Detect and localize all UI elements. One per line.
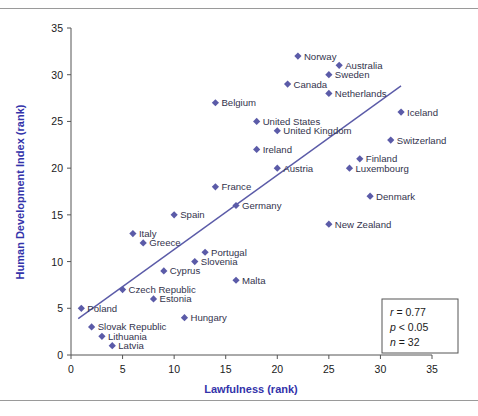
data-point-marker	[181, 314, 188, 321]
stat-n: n = 32	[390, 336, 420, 348]
data-point-label: Ireland	[263, 144, 292, 155]
data-point-marker	[98, 333, 105, 340]
y-tick-label: 5	[57, 302, 63, 314]
figure-container: 05101520253035 05101520253035 NorwayAust…	[0, 0, 478, 416]
y-axis-title: Human Development Index (rank)	[14, 104, 26, 279]
data-point-label: Iceland	[407, 107, 438, 118]
data-point-label: Latvia	[118, 340, 144, 351]
data-point-marker	[171, 211, 178, 218]
y-tick-label: 25	[51, 115, 63, 127]
data-point-label: Germany	[242, 200, 282, 211]
data-point-label: Hungary	[190, 312, 226, 323]
scatter-plot: 05101520253035 05101520253035 NorwayAust…	[0, 0, 478, 416]
statistics-box: r = 0.77 p < 0.05 n = 32	[382, 299, 458, 353]
data-point-marker	[150, 295, 157, 302]
data-point-marker	[336, 62, 343, 69]
data-point-marker	[367, 193, 374, 200]
y-tick-label: 30	[51, 69, 63, 81]
data-point-label: Luxembourg	[355, 163, 408, 174]
data-point-label: New Zealand	[335, 219, 392, 230]
data-point-label: Greece	[149, 237, 180, 248]
data-point-label: Canada	[294, 79, 328, 90]
data-point-label: Sweden	[335, 69, 370, 80]
y-tick-label: 15	[51, 209, 63, 221]
data-point-marker	[274, 165, 281, 172]
data-point-label: Estonia	[160, 293, 193, 304]
data-point-marker	[191, 258, 198, 265]
data-point-marker	[201, 249, 208, 256]
data-point-marker	[325, 90, 332, 97]
data-point-marker	[325, 71, 332, 78]
y-tick-label: 0	[57, 349, 63, 361]
data-point-marker	[119, 286, 126, 293]
data-point-marker	[232, 277, 239, 284]
data-point-marker	[140, 239, 147, 246]
y-tick-label: 10	[51, 256, 63, 268]
data-point-label: Austria	[283, 163, 314, 174]
data-point-marker	[212, 183, 219, 190]
x-tick-label: 20	[271, 363, 283, 375]
data-point-marker	[88, 323, 95, 330]
x-tick-label: 25	[323, 363, 335, 375]
data-point-label: Norway	[304, 51, 337, 62]
x-axis-ticks: 05101520253035	[68, 355, 438, 375]
data-point-label: Cyprus	[170, 265, 201, 276]
data-point-label: France	[221, 181, 251, 192]
data-point-marker	[109, 342, 116, 349]
data-point-marker	[325, 221, 332, 228]
stat-r: r = 0.77	[390, 306, 426, 318]
data-point-marker	[212, 99, 219, 106]
data-point-marker	[253, 118, 260, 125]
data-point-label: Malta	[242, 275, 266, 286]
data-point-marker	[274, 127, 281, 134]
data-point-marker	[356, 155, 363, 162]
data-point-marker	[397, 108, 404, 115]
data-point-marker	[346, 165, 353, 172]
data-point-marker	[294, 52, 301, 59]
y-tick-label: 20	[51, 162, 63, 174]
data-point-marker	[387, 137, 394, 144]
x-tick-label: 30	[375, 363, 387, 375]
data-point-label: Poland	[87, 303, 117, 314]
data-point-label: Netherlands	[335, 88, 387, 99]
data-point-marker	[78, 305, 85, 312]
data-point-marker	[160, 267, 167, 274]
data-point-label: Switzerland	[397, 135, 447, 146]
stat-p: p < 0.05	[389, 321, 428, 333]
y-axis-ticks: 05101520253035	[51, 22, 71, 361]
y-tick-label: 35	[51, 22, 63, 34]
data-point-marker	[284, 80, 291, 87]
x-tick-label: 35	[426, 363, 438, 375]
x-axis-title: Lawfulness (rank)	[204, 383, 298, 395]
regression-line	[78, 86, 401, 319]
x-tick-label: 15	[220, 363, 232, 375]
data-point-label: Spain	[180, 209, 205, 220]
x-tick-label: 5	[120, 363, 126, 375]
x-tick-label: 0	[68, 363, 74, 375]
data-point-marker	[129, 230, 136, 237]
data-point-label: United Kingdom	[283, 125, 351, 136]
data-point-label: Denmark	[376, 191, 415, 202]
x-tick-label: 10	[168, 363, 180, 375]
data-point-label: Belgium	[221, 97, 256, 108]
data-point-label: Slovenia	[201, 256, 238, 267]
data-point-marker	[253, 146, 260, 153]
